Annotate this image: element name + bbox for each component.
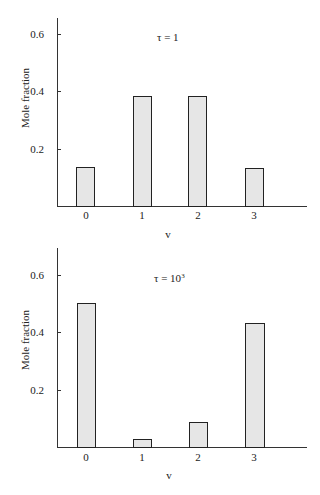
- x-axis-label: v: [159, 469, 179, 481]
- bar-v3: [245, 323, 265, 448]
- bar-v0: [77, 303, 96, 448]
- y-tick-0.6: [57, 275, 61, 276]
- y-tick-0.4: [57, 332, 61, 333]
- tau-annotation-sup: 3: [181, 272, 185, 280]
- x-tick-label: 2: [188, 451, 208, 463]
- y-axis-label: Mole fraction: [19, 300, 31, 380]
- y-axis: [57, 248, 58, 448]
- x-tick-label: 3: [244, 451, 264, 463]
- chart-panel-tau-1000: 0.6 0.4 0.2 Mole fraction τ = 103 0 1 2 …: [0, 0, 320, 495]
- x-tick-label: 1: [132, 451, 152, 463]
- x-tick-label: 0: [76, 451, 96, 463]
- tau-annotation: τ = 103: [154, 270, 185, 284]
- bar-v1: [133, 439, 152, 448]
- bar-v2: [189, 422, 208, 448]
- y-tick-label: 0.2: [14, 384, 44, 396]
- y-tick-0.2: [57, 390, 61, 391]
- y-tick-label: 0.6: [14, 269, 44, 281]
- tau-annotation-text: τ = 10: [154, 272, 181, 284]
